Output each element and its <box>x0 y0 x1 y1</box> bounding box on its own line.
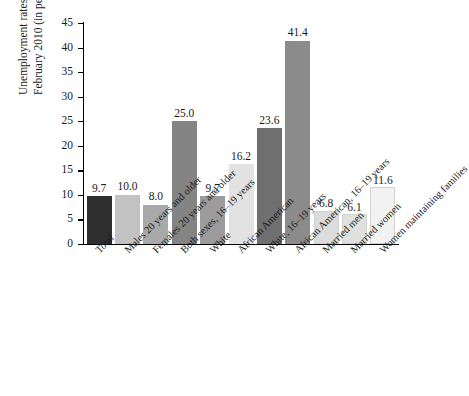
y-axis-title-line-2: February 2010 (in percent) <box>31 0 46 95</box>
bar-value-label: 41.4 <box>288 27 308 39</box>
y-tick-label: 0 <box>67 238 73 250</box>
bar-value-label: 9.7 <box>92 183 106 195</box>
bar-value-label: 23.6 <box>259 115 279 127</box>
y-tick-mark <box>78 72 83 73</box>
y-tick-mark <box>78 219 83 220</box>
y-tick-mark <box>78 244 83 245</box>
y-tick-label: 30 <box>62 91 74 103</box>
y-tick-label: 40 <box>62 42 74 54</box>
plot-area: 9.710.08.025.09.716.223.641.46.86.111.6 <box>84 23 396 244</box>
bar-value-label: 10.0 <box>117 181 137 193</box>
y-tick-mark <box>78 170 83 171</box>
bar-value-label: 8.0 <box>149 191 163 203</box>
y-tick-label: 25 <box>62 115 74 127</box>
y-tick-label: 15 <box>62 165 74 177</box>
bar-value-label: 25.0 <box>174 108 194 120</box>
y-tick-label: 5 <box>67 214 73 226</box>
y-tick-mark <box>78 23 83 24</box>
y-axis-title-line-1: Unemployment rates, <box>16 0 31 95</box>
y-tick-label: 20 <box>62 140 74 152</box>
y-tick-mark <box>78 48 83 49</box>
y-tick-mark <box>78 146 83 147</box>
bar-value-label: 16.2 <box>231 151 251 163</box>
y-tick-mark <box>78 121 83 122</box>
y-tick-label: 10 <box>62 189 74 201</box>
y-axis-title: Unemployment rates, February 2010 (in pe… <box>16 0 45 95</box>
y-tick-label: 35 <box>62 66 74 78</box>
y-tick-mark <box>78 195 83 196</box>
y-tick-mark <box>78 97 83 98</box>
y-tick-label: 45 <box>62 17 74 29</box>
